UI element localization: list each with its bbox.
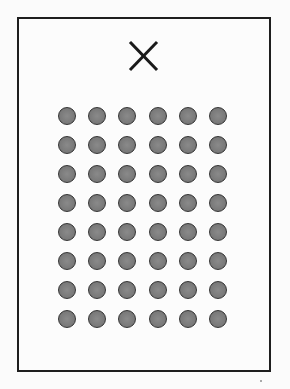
grid-dot (88, 194, 106, 212)
grid-dot (58, 310, 76, 328)
grid-dot (149, 310, 167, 328)
grid-dot (88, 107, 106, 125)
grid-dot (209, 136, 227, 154)
grid-dot (88, 252, 106, 270)
grid-dot (209, 223, 227, 241)
grid-dot (179, 107, 197, 125)
scan-speck (260, 380, 262, 382)
grid-dot (58, 252, 76, 270)
grid-dot (118, 107, 136, 125)
grid-dot (88, 136, 106, 154)
grid-dot (209, 281, 227, 299)
grid-dot (149, 281, 167, 299)
grid-dot (179, 281, 197, 299)
grid-dot (118, 310, 136, 328)
grid-dot (88, 281, 106, 299)
grid-dot (118, 223, 136, 241)
grid-dot (209, 165, 227, 183)
grid-dot (179, 165, 197, 183)
grid-dot (179, 310, 197, 328)
grid-dot (179, 223, 197, 241)
grid-dot (118, 165, 136, 183)
grid-dot (209, 310, 227, 328)
grid-dot (149, 165, 167, 183)
grid-dot (149, 136, 167, 154)
grid-dot (58, 281, 76, 299)
grid-dot (149, 252, 167, 270)
grid-dot (118, 136, 136, 154)
grid-dot (88, 310, 106, 328)
grid-dot (58, 165, 76, 183)
grid-dot (88, 223, 106, 241)
grid-dot (118, 252, 136, 270)
grid-dot (179, 136, 197, 154)
grid-dot (209, 194, 227, 212)
diagram-frame (17, 17, 271, 372)
grid-dot (209, 252, 227, 270)
grid-dot (58, 136, 76, 154)
grid-dot (118, 194, 136, 212)
grid-dot (88, 165, 106, 183)
grid-dot (58, 194, 76, 212)
grid-dot (149, 107, 167, 125)
grid-dot (149, 194, 167, 212)
grid-dot (118, 281, 136, 299)
grid-dot (179, 194, 197, 212)
grid-dot (149, 223, 167, 241)
grid-dot (209, 107, 227, 125)
grid-dot (58, 223, 76, 241)
grid-dot (179, 252, 197, 270)
grid-dot (58, 107, 76, 125)
